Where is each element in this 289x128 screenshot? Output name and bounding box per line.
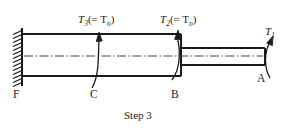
point-label-a: A (257, 73, 265, 85)
torque-arrow-b (172, 30, 181, 80)
torsion-shaft-diagram: T3(= To) T2(= To) T1 F C B A Step 3 (0, 0, 289, 128)
torque-label-t3-eq: (= T (88, 13, 107, 25)
torque-label-t2-close: ) (193, 13, 197, 25)
torque-label-t1: T1 (265, 26, 275, 40)
torque-label-t1-sub: 1 (271, 31, 275, 40)
torque-arc-c (92, 40, 99, 88)
figure-caption: Step 3 (124, 110, 152, 121)
fixed-support-wall (13, 28, 22, 87)
torque-label-t2: T2(= To) (160, 14, 196, 28)
torque-label-t3: T3(= To) (78, 14, 114, 28)
point-label-b: B (171, 89, 179, 101)
wall-hatching (13, 31, 22, 87)
torque-label-t2-eq: (= T (170, 13, 189, 25)
torque-arrow-a (266, 36, 274, 78)
point-label-f: F (13, 89, 19, 101)
torque-arc-a (266, 42, 271, 78)
torque-label-t3-close: ) (111, 13, 115, 25)
torque-arrow-c (92, 32, 102, 88)
torque-arc-b (172, 40, 179, 80)
point-label-c: C (90, 89, 98, 101)
